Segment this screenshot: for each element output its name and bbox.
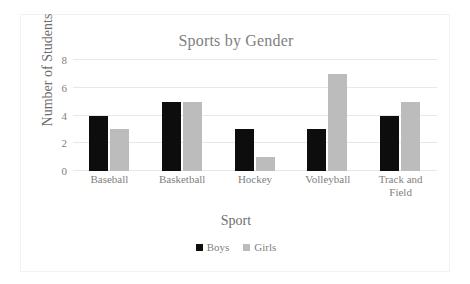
bar-boys-baseball[interactable] — [89, 116, 108, 172]
bar-boys-hockey[interactable] — [235, 129, 254, 171]
legend-swatch-girls-icon — [243, 244, 250, 251]
y-axis-tick-label: 2 — [47, 137, 67, 149]
legend-label: Girls — [254, 241, 276, 253]
x-axis-tick-label: Track andField — [364, 173, 437, 199]
x-axis-tick-label: Basketball — [146, 173, 219, 186]
bar-boys-track-and-field[interactable] — [380, 116, 399, 172]
bar-boys-basketball[interactable] — [162, 102, 181, 171]
legend-label: Boys — [207, 241, 230, 253]
bar-group — [73, 60, 146, 171]
bar-girls-track-and-field[interactable] — [401, 102, 420, 171]
x-axis-title: Sport — [21, 213, 451, 229]
bar-group — [219, 60, 292, 171]
plot-area: 02468 — [73, 60, 437, 171]
x-axis-tick-label: Hockey — [219, 173, 292, 186]
legend-item-girls[interactable]: Girls — [243, 241, 276, 253]
y-axis-tick-label: 4 — [47, 110, 67, 122]
chart-legend: BoysGirls — [21, 241, 451, 253]
bar-group — [291, 60, 364, 171]
bar-boys-volleyball[interactable] — [307, 129, 326, 171]
bar-girls-volleyball[interactable] — [328, 74, 347, 171]
y-axis-tick-label: 0 — [47, 165, 67, 177]
legend-swatch-boys-icon — [196, 244, 203, 251]
legend-item-boys[interactable]: Boys — [196, 241, 230, 253]
bar-girls-basketball[interactable] — [183, 102, 202, 171]
x-axis-tick-label: Volleyball — [291, 173, 364, 186]
y-axis-tick-label: 6 — [47, 82, 67, 94]
y-axis-tick-label: 8 — [47, 54, 67, 66]
bar-group — [146, 60, 219, 171]
chart-title: Sports by Gender — [21, 32, 451, 50]
chart-container: Sports by Gender Number of Students 0246… — [20, 14, 450, 272]
x-axis-tick-label: Baseball — [73, 173, 146, 186]
x-axis-tick-labels: BaseballBasketballHockeyVolleyballTrack … — [73, 173, 437, 207]
bar-girls-baseball[interactable] — [110, 129, 129, 171]
bar-girls-hockey[interactable] — [256, 157, 275, 171]
bar-group — [364, 60, 437, 171]
